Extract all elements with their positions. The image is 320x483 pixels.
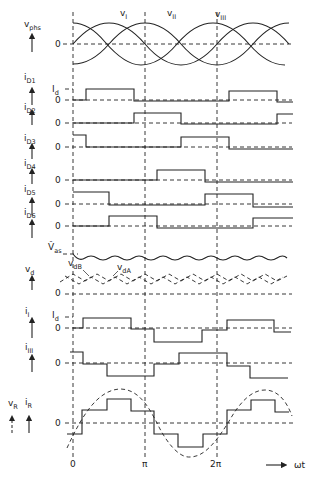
svg-text:0: 0 — [55, 288, 61, 298]
x-axis: 0 π 2π ωt — [70, 459, 306, 470]
svg-text:iD5: iD5 — [24, 184, 36, 197]
svg-text:vII: vII — [167, 8, 176, 21]
svg-text:0: 0 — [55, 142, 61, 152]
svg-text:vphs: vphs — [24, 19, 42, 32]
svg-text:iR: iR — [25, 397, 33, 410]
svg-text:π: π — [142, 459, 148, 469]
panel-vd: V̂as vd vdB vdA 0 — [25, 241, 292, 298]
panel-iI: iI Id 0 — [25, 306, 292, 342]
panel-vR-iR: vR iR 0 — [8, 389, 296, 457]
svg-text:0: 0 — [55, 118, 61, 128]
svg-text:Id: Id — [52, 310, 59, 323]
svg-text:2π: 2π — [210, 459, 222, 469]
svg-text:vd: vd — [25, 264, 34, 277]
panel-iD6: iD6 0 — [24, 207, 293, 238]
svg-text:vdB: vdB — [68, 258, 82, 271]
panel-iD2: iD2 0 — [24, 102, 293, 128]
panel-iD4: iD4 0 — [24, 158, 293, 185]
svg-text:vdA: vdA — [117, 262, 131, 275]
svg-text:0: 0 — [55, 39, 61, 49]
svg-text:ωt: ωt — [294, 460, 306, 470]
svg-text:iD1: iD1 — [24, 72, 36, 85]
waveform-diagram: vI vII vIII vphs 0 iD1 Id 0 iD2 0 iD3 0 — [0, 0, 320, 483]
svg-text:vR: vR — [8, 398, 18, 411]
svg-text:0: 0 — [55, 95, 61, 105]
svg-text:0: 0 — [55, 418, 61, 428]
svg-text:iD2: iD2 — [24, 102, 36, 115]
panel-iD5: iD5 0 — [24, 184, 293, 215]
panel-vphs: vphs 0 — [24, 19, 292, 65]
svg-text:0: 0 — [55, 358, 61, 368]
panel-iD1: iD1 Id 0 — [24, 72, 293, 105]
svg-text:0: 0 — [55, 199, 61, 209]
svg-text:0: 0 — [55, 323, 61, 333]
svg-text:iD4: iD4 — [24, 158, 36, 171]
svg-text:V̂as: V̂as — [48, 241, 62, 255]
svg-text:iD6: iD6 — [24, 207, 36, 220]
svg-text:0: 0 — [55, 221, 61, 231]
panel-iIII: iIII 0 — [25, 342, 292, 378]
svg-text:iI: iI — [25, 306, 30, 319]
svg-text:iD3: iD3 — [24, 133, 36, 146]
svg-text:0: 0 — [55, 175, 61, 185]
phase-labels: vI vII vIII — [120, 8, 226, 22]
svg-text:iIII: iIII — [25, 342, 33, 355]
svg-text:0: 0 — [70, 459, 76, 469]
panel-iD3: iD3 0 — [24, 133, 293, 159]
svg-text:vI: vI — [120, 8, 127, 21]
reference-lines — [73, 12, 217, 458]
